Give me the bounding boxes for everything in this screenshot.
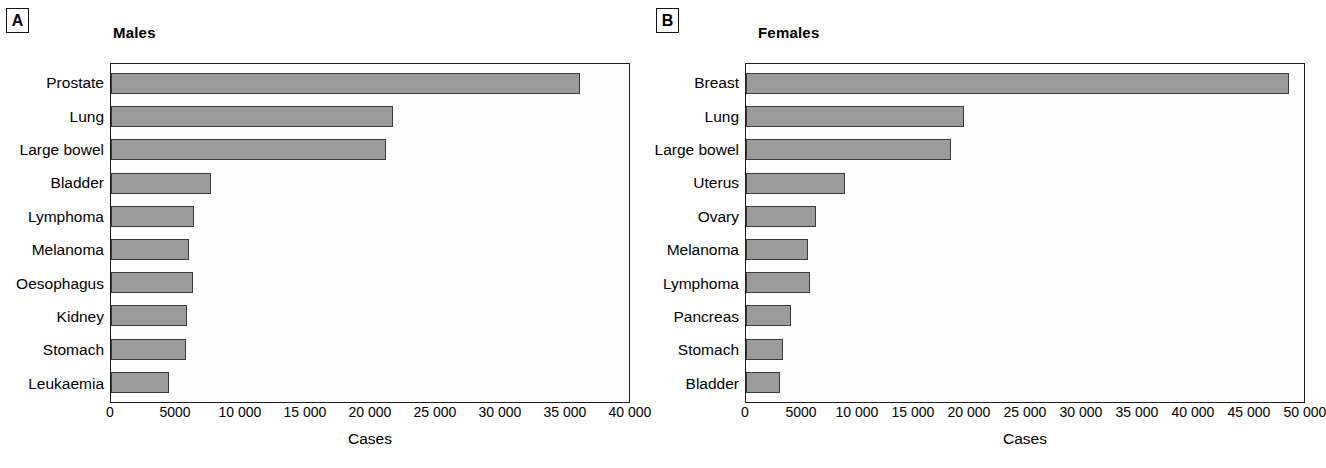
x-tick-label: 45 000 bbox=[1228, 404, 1271, 420]
bar bbox=[111, 73, 580, 94]
category-label: Large bowel bbox=[0, 139, 104, 160]
x-tick-label: 15 000 bbox=[892, 404, 935, 420]
x-tick-label: 10 000 bbox=[836, 404, 879, 420]
panel-label-b: B bbox=[656, 8, 679, 33]
bar bbox=[746, 139, 951, 160]
plot-area-males bbox=[110, 63, 630, 403]
bar bbox=[746, 106, 964, 127]
bar bbox=[746, 339, 783, 360]
category-label: Large bowel bbox=[645, 139, 739, 160]
panel-title-females: Females bbox=[758, 24, 819, 41]
bar bbox=[746, 206, 816, 227]
bar-group-males bbox=[111, 64, 629, 402]
bar bbox=[746, 73, 1289, 94]
x-tick-label: 0 bbox=[741, 404, 749, 420]
category-label: Prostate bbox=[0, 72, 104, 93]
category-label: Kidney bbox=[0, 306, 104, 327]
bar-row bbox=[111, 73, 629, 94]
category-label: Bladder bbox=[645, 373, 739, 394]
x-tick-label: 5000 bbox=[159, 404, 190, 420]
bar bbox=[746, 305, 791, 326]
bar-row bbox=[746, 372, 1304, 393]
category-label: Melanoma bbox=[645, 239, 739, 260]
bar bbox=[111, 305, 187, 326]
bar bbox=[746, 272, 810, 293]
x-tick-label: 15 000 bbox=[284, 404, 327, 420]
x-tick-label: 20 000 bbox=[948, 404, 991, 420]
bar bbox=[111, 139, 386, 160]
plot-area-females bbox=[745, 63, 1305, 403]
bar bbox=[111, 106, 393, 127]
x-tick-label: 5000 bbox=[785, 404, 816, 420]
x-tick-label: 10 000 bbox=[219, 404, 262, 420]
bar-row bbox=[111, 305, 629, 326]
bar bbox=[746, 372, 780, 393]
bar bbox=[111, 339, 186, 360]
bar-row bbox=[111, 173, 629, 194]
category-label: Oesophagus bbox=[0, 273, 104, 294]
x-tick-label: 0 bbox=[106, 404, 114, 420]
bar-row bbox=[746, 239, 1304, 260]
x-tick-label: 25 000 bbox=[414, 404, 457, 420]
bar-row bbox=[111, 139, 629, 160]
x-axis-title-males: Cases bbox=[110, 430, 630, 448]
bar bbox=[111, 272, 193, 293]
panel-females: B Females BreastLungLarge bowelUterusOva… bbox=[645, 0, 1322, 468]
x-axis-title-females: Cases bbox=[745, 430, 1305, 448]
bar-row bbox=[746, 305, 1304, 326]
category-label: Stomach bbox=[0, 339, 104, 360]
bar bbox=[111, 206, 194, 227]
category-label: Breast bbox=[645, 72, 739, 93]
category-label: Leukaemia bbox=[0, 373, 104, 394]
category-label: Stomach bbox=[645, 339, 739, 360]
bar bbox=[746, 173, 845, 194]
x-tick-label: 30 000 bbox=[1060, 404, 1103, 420]
bar-row bbox=[111, 372, 629, 393]
x-tick-label: 50 000 bbox=[1284, 404, 1326, 420]
bar bbox=[111, 173, 211, 194]
bar-row bbox=[111, 106, 629, 127]
x-tick-label: 20 000 bbox=[349, 404, 392, 420]
bar-row bbox=[746, 339, 1304, 360]
category-label: Uterus bbox=[645, 172, 739, 193]
bar-group-females bbox=[746, 64, 1304, 402]
bar-row bbox=[746, 173, 1304, 194]
bar bbox=[746, 239, 808, 260]
x-tick-label: 30 000 bbox=[479, 404, 522, 420]
category-label: Lung bbox=[0, 106, 104, 127]
bar-row bbox=[746, 106, 1304, 127]
bar-row bbox=[746, 206, 1304, 227]
x-axis-females: 0500010 00015 00020 00025 00030 00035 00… bbox=[745, 404, 1305, 426]
bar bbox=[111, 372, 169, 393]
bar-row bbox=[746, 73, 1304, 94]
bar-row bbox=[111, 239, 629, 260]
category-label: Melanoma bbox=[0, 239, 104, 260]
category-labels-females: BreastLungLarge bowelUterusOvaryMelanoma… bbox=[645, 63, 739, 403]
x-tick-label: 40 000 bbox=[1172, 404, 1215, 420]
panel-title-males: Males bbox=[113, 24, 156, 41]
bar bbox=[111, 239, 189, 260]
bar-row bbox=[111, 339, 629, 360]
x-tick-label: 35 000 bbox=[1116, 404, 1159, 420]
category-label: Pancreas bbox=[645, 306, 739, 327]
x-tick-label: 25 000 bbox=[1004, 404, 1047, 420]
category-label: Lymphoma bbox=[645, 273, 739, 294]
x-axis-males: 0500010 00015 00020 00025 00030 00035 00… bbox=[110, 404, 630, 426]
category-label: Bladder bbox=[0, 172, 104, 193]
panel-males: A Males ProstateLungLarge bowelBladderLy… bbox=[0, 0, 645, 468]
x-tick-label: 35 000 bbox=[544, 404, 587, 420]
bar-row bbox=[746, 139, 1304, 160]
category-label: Ovary bbox=[645, 206, 739, 227]
category-label: Lymphoma bbox=[0, 206, 104, 227]
category-label: Lung bbox=[645, 106, 739, 127]
panel-label-a: A bbox=[6, 8, 29, 33]
bar-row bbox=[111, 206, 629, 227]
bar-row bbox=[746, 272, 1304, 293]
category-labels-males: ProstateLungLarge bowelBladderLymphomaMe… bbox=[0, 63, 104, 403]
bar-row bbox=[111, 272, 629, 293]
